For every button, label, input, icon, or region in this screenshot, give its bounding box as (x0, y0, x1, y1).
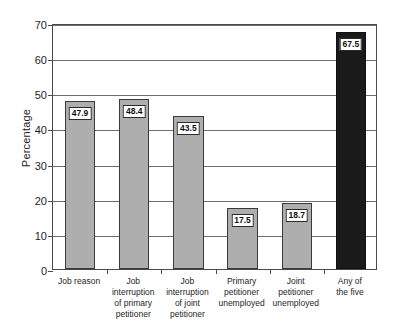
x-axis-label-line: Job (160, 276, 214, 287)
x-axis-label-line: unemployed (215, 298, 269, 309)
x-axis-category-label: Jointpetitionerunemployed (269, 276, 323, 309)
bar[interactable]: 17.5 (227, 208, 257, 270)
bar-value-label: 17.5 (231, 214, 254, 227)
x-axis-tick-mark (161, 269, 162, 274)
bar[interactable]: 48.4 (119, 99, 149, 269)
x-axis-category-label: Primarypetitionerunemployed (215, 276, 269, 309)
bar[interactable]: 47.9 (65, 101, 95, 269)
x-axis-category-labels: Job reasonJobinterruptionof primarypetit… (52, 276, 377, 332)
bar[interactable]: 67.5 (336, 32, 366, 269)
y-axis-tick-label: 40 (35, 124, 47, 136)
bar-slot: 48.4 (107, 25, 161, 269)
x-axis-category-label: Job reason (52, 276, 106, 287)
bar-slot: 67.5 (324, 25, 378, 269)
x-axis-label-line: Any of (323, 276, 377, 287)
x-axis-category-label: Jobinterruptionof primarypetitioner (106, 276, 160, 320)
bar-value-label: 48.4 (123, 105, 146, 118)
bar-slot: 17.5 (216, 25, 270, 269)
y-axis-tick-label: 70 (35, 19, 47, 31)
bar-slot: 47.9 (53, 25, 107, 269)
x-axis-label-line: interruption (160, 287, 214, 298)
x-axis-label-line: the five (323, 287, 377, 298)
x-axis-label-line: of primary (106, 298, 160, 309)
y-axis-tick-mark (48, 271, 53, 272)
plot-area: 010203040506070 47.948.443.517.518.767.5 (52, 24, 377, 270)
y-axis-tick-label: 0 (41, 265, 47, 277)
x-axis-label-line: interruption (106, 287, 160, 298)
y-axis-tick-label: 20 (35, 195, 47, 207)
x-axis-label-line: unemployed (269, 298, 323, 309)
x-axis-tick-mark (324, 269, 325, 274)
bar-value-label: 67.5 (340, 38, 363, 51)
bar[interactable]: 18.7 (282, 203, 312, 269)
x-axis-tick-mark (216, 269, 217, 274)
x-axis-category-label: Jobinterruptionof jointpetitioner (160, 276, 214, 320)
x-axis-category-label: Any ofthe five (323, 276, 377, 298)
x-axis-label-line: petitioner (269, 287, 323, 298)
x-axis-tick-mark (270, 269, 271, 274)
bar-value-label: 18.7 (285, 209, 308, 222)
x-axis-tick-mark (107, 269, 108, 274)
bar-series: 47.948.443.517.518.767.5 (53, 25, 376, 269)
bar-value-label: 43.5 (177, 122, 200, 135)
bar-value-label: 47.9 (69, 107, 92, 120)
x-axis-label-line: Primary (215, 276, 269, 287)
bar[interactable]: 43.5 (173, 116, 203, 269)
x-axis-label-line: Job (106, 276, 160, 287)
y-axis-tick-label: 10 (35, 230, 47, 242)
x-axis-label-line: Job reason (52, 276, 106, 287)
bar-chart-figure: Percentage 010203040506070 47.948.443.51… (0, 0, 396, 334)
y-axis-tick-label: 50 (35, 89, 47, 101)
x-axis-label-line: of joint (160, 298, 214, 309)
x-axis-label-line: petitioner (160, 309, 214, 320)
bar-slot: 43.5 (161, 25, 215, 269)
y-axis-tick-label: 60 (35, 54, 47, 66)
bar-slot: 18.7 (270, 25, 324, 269)
x-axis-label-line: petitioner (106, 309, 160, 320)
y-axis-title: Percentage (20, 68, 32, 208)
x-axis-label-line: Joint (269, 276, 323, 287)
y-axis-tick-label: 30 (35, 160, 47, 172)
x-axis-label-line: petitioner (215, 287, 269, 298)
